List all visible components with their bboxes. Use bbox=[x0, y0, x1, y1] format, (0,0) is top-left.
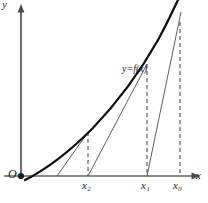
tangent-line-x1 bbox=[88, 64, 147, 176]
function-curve bbox=[25, 0, 178, 180]
tick-label-x0: x₀ bbox=[173, 180, 182, 191]
y-axis-label: y bbox=[2, 0, 7, 10]
tangent-line-x0 bbox=[147, 12, 181, 176]
newton-method-figure: y x O x₂ x₁ x₀ y=f(x) bbox=[0, 0, 208, 203]
curve-equation-label: y=f(x) bbox=[122, 64, 147, 74]
tick-label-x1: x₁ bbox=[141, 180, 150, 191]
origin-point bbox=[18, 173, 24, 179]
y-axis bbox=[18, 4, 25, 177]
plot-canvas bbox=[0, 0, 208, 203]
origin-label: O bbox=[8, 168, 17, 180]
tick-label-x2: x₂ bbox=[82, 180, 91, 191]
x-axis-label: x bbox=[196, 170, 201, 181]
